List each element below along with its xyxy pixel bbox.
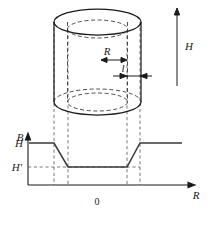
ytick-label-H: H xyxy=(14,137,24,149)
thickness-dimension xyxy=(113,73,152,78)
y-axis-arrowhead xyxy=(25,133,30,140)
bottom-inner-ellipse-hidden xyxy=(68,93,128,111)
top-inner-ellipse-back xyxy=(68,20,128,29)
height-label: H xyxy=(184,40,194,52)
radius-label: R xyxy=(103,45,111,57)
graph-axes xyxy=(25,133,195,188)
xtick-label-origin: 0 xyxy=(95,196,100,207)
cylinder-field-profile-figure: R l H B R H H' 0 xyxy=(0,0,210,227)
height-arrow-up xyxy=(174,8,179,15)
thickness-arrow-left xyxy=(120,73,127,78)
bottom-outer-ellipse-front xyxy=(54,102,141,115)
x-axis-arrowhead xyxy=(188,182,195,187)
field-profile-curve xyxy=(29,143,182,167)
thickness-label: l xyxy=(121,62,124,74)
height-dimension xyxy=(174,8,179,86)
x-axis-label: R xyxy=(192,189,200,201)
radius-arrow-left xyxy=(101,57,107,62)
cylinder-group xyxy=(54,9,141,115)
ytick-label-H-prime: H' xyxy=(11,161,23,173)
